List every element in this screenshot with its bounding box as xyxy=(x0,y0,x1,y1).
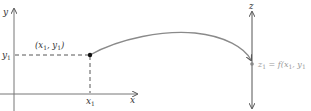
y1-tick-label: y1 xyxy=(1,50,11,61)
point-z1 xyxy=(250,62,254,66)
y-axis-label: y xyxy=(2,7,9,17)
x-axis-label: x xyxy=(130,95,135,105)
x1-tick-label: x1 xyxy=(86,96,95,107)
z1-value-label: z1 = f(x1, y1 xyxy=(257,60,306,70)
z-axis-label: z xyxy=(248,1,254,11)
function-mapping-diagram: y x y1 x1 (x1, y1) z z1 = f(x1, y1 xyxy=(0,0,311,111)
mapping-curve xyxy=(90,32,251,60)
point-label: (x1, y1) xyxy=(35,40,64,51)
point-x1-y1 xyxy=(88,53,92,57)
